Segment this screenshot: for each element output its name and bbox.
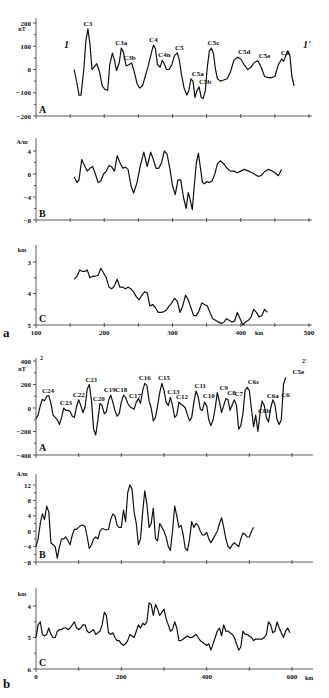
anomaly-label: C6 (281, 49, 290, 57)
anomaly-label: C24 (42, 387, 55, 395)
x-tick-label: 200 (99, 329, 110, 337)
y-tick-label: 4 (28, 148, 32, 156)
x-tick-label: 600 (287, 673, 298, 681)
x-tick-label: 400 (201, 673, 212, 681)
x-tick-label: 200 (116, 673, 127, 681)
x-unit-label: km (255, 330, 263, 336)
figure-label-a: a (3, 325, 10, 340)
panel-letter: B (39, 549, 46, 560)
anomaly-label: C12 (176, 393, 189, 401)
y-tick-label: 8 (28, 497, 32, 505)
anomaly-label: C5e (293, 368, 305, 376)
anomaly-label: C5c (208, 39, 220, 47)
y-tick-label: 6 (28, 666, 32, 674)
data-curve (74, 29, 294, 99)
anomaly-label: C22 (73, 391, 86, 399)
anomaly-label: C11 (194, 382, 206, 390)
anomaly-label: C5d (238, 48, 251, 56)
y-tick-label: 4 (28, 512, 32, 520)
data-curve (36, 485, 254, 558)
anomaly-label: C10 (203, 392, 216, 400)
y-unit-label: nT (18, 26, 25, 32)
figure-label-b: b (3, 676, 10, 691)
y-tick-label: 0 (28, 171, 32, 179)
y-unit-label: km (18, 247, 26, 253)
anomaly-label: C3 (84, 20, 93, 28)
y-tick-label: 400 (21, 358, 32, 366)
data-curve (74, 151, 282, 210)
y-tick-label: 200 (21, 381, 32, 389)
x-tick-label: 300 (167, 329, 178, 337)
y-unit-label: nT (18, 366, 25, 372)
panel-letter: B (39, 208, 46, 219)
anomaly-label: C17 (129, 392, 142, 400)
anomaly-label: C6a (267, 392, 280, 400)
y-tick-label: 0 (28, 528, 32, 536)
panel-letter: C (39, 313, 46, 324)
profile-end-label: 1' (303, 39, 311, 50)
anomaly-label: C5 (175, 44, 184, 52)
anomaly-label: C5a (192, 70, 205, 78)
anomaly-label: C15 (158, 374, 171, 382)
y-tick-label: 100 (21, 43, 32, 51)
y-tick-label: 0 (28, 66, 32, 74)
y-tick-label: −200 (17, 113, 32, 121)
y-tick-label: −100 (17, 89, 32, 97)
anomaly-label: C20 (93, 395, 106, 403)
y-tick-label: −200 (17, 428, 32, 436)
y-tick-label: 3 (28, 259, 32, 267)
anomaly-label: C16 (139, 374, 152, 382)
anomaly-label: C6b (258, 407, 271, 415)
anomaly-label: C4 (149, 36, 158, 44)
x-tick-label: 500 (304, 329, 315, 337)
panel-letter: A (39, 104, 47, 115)
data-curve (36, 603, 290, 650)
profile-end-label: 2' (302, 358, 307, 364)
anomaly-label: C4n (158, 51, 171, 59)
y-unit-label: km (18, 591, 26, 597)
x-unit-label: km (305, 675, 313, 681)
figure-canvas: 2001000−100−200nTAC3C3aC3bC4C4nC5C5aC5bC… (0, 0, 329, 698)
y-tick-label: 4 (28, 603, 32, 611)
anomaly-label: C23 (60, 399, 73, 407)
anomaly-label: C21 (85, 376, 98, 384)
x-tick-label: 100 (31, 329, 42, 337)
anomaly-label: C5e (259, 52, 271, 60)
anomaly-label: C5b (199, 78, 212, 86)
anomaly-label: C3b (123, 54, 136, 62)
data-curve (74, 268, 267, 325)
x-tick-label: 400 (236, 329, 247, 337)
y-unit-label: A/m (17, 471, 28, 477)
anomaly-label: C6c (248, 378, 260, 386)
panel-letter: A (39, 442, 47, 453)
y-tick-label: −4 (24, 194, 32, 202)
y-tick-label: −4 (24, 543, 32, 551)
y-tick-label: 12 (24, 482, 32, 490)
y-tick-label: 0 (28, 405, 32, 413)
x-tick-label: 0 (34, 673, 38, 681)
y-tick-label: 5 (28, 634, 32, 642)
anomaly-label: C3a (115, 39, 128, 47)
y-tick-label: −8 (24, 559, 32, 567)
panel-letter: C (39, 657, 46, 668)
y-unit-label: A/m (17, 139, 28, 145)
y-tick-label: −8 (24, 217, 32, 225)
anomaly-label: C6 (281, 391, 290, 399)
y-tick-label: 4 (28, 290, 32, 298)
anomaly-label: C7 (234, 390, 243, 398)
y-tick-label: −400 (17, 452, 32, 460)
profile-start-label: 2 (40, 355, 43, 361)
anomaly-label: C18 (115, 386, 128, 394)
profile-start-label: 1 (64, 39, 69, 50)
